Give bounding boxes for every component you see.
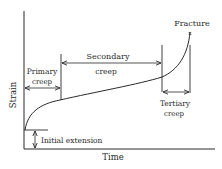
initial-extension-label: Initial extension xyxy=(41,136,103,145)
y-axis-label: Strain xyxy=(8,81,18,108)
fracture-label: Fracture xyxy=(174,19,210,28)
x-axis-label: Time xyxy=(102,152,123,162)
tertiary-creep-label-line1: Tertiary xyxy=(160,99,191,108)
primary-creep-label-line1: Primary xyxy=(27,67,58,76)
tertiary-creep-label-line2: creep xyxy=(164,110,185,118)
secondary-creep-label-line2: creep xyxy=(95,67,117,76)
creep-curve-diagram: Time Strain x Fracture Primary creep Sec… xyxy=(0,0,222,169)
primary-creep-label-line2: creep xyxy=(32,78,53,86)
secondary-creep-label-line1: Secondary xyxy=(87,52,130,61)
fracture-marker: x xyxy=(188,29,192,36)
